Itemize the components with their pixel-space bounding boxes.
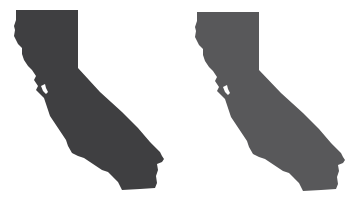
california-map-dark — [0, 0, 181, 205]
california-map-gray — [181, 0, 362, 205]
map-panel-right — [181, 0, 362, 205]
california-silhouette — [195, 12, 345, 191]
california-silhouette — [14, 10, 164, 190]
map-panel-left — [0, 0, 181, 205]
